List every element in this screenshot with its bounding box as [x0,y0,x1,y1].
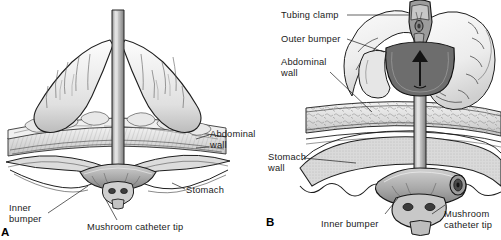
label-panel-b-stomach-wall: Stomachwall [268,152,306,173]
panel-b-mushroom-catheter-tip [392,194,446,236]
label-panel-a-inner-bumper: Innerbumper [9,203,42,224]
label-panel-b-mushroom-catheter-tip: Mushroomcatheter tip [444,209,492,230]
panel-a-mushroom-catheter-tip [102,182,133,210]
label-panel-a-mushroom-catheter-tip: Mushroom catheter tip [87,222,183,233]
figure-gastrostomy-tube-placement: Abdominalwall Stomach Innerbumper Mushro… [0,0,501,240]
label-panel-a-abdominal-wall: Abdominalwall [210,129,256,150]
panel-letter-b: B [266,216,274,228]
panel-a-catheter-tube [112,10,124,172]
label-panel-a-stomach: Stomach [186,185,224,196]
illustration-artwork [0,0,501,240]
label-panel-b-outer-bumper: Outer bumper [281,34,341,45]
panel-b-outer-bumper [359,42,455,98]
label-panel-b-inner-bumper: Inner bumper [321,219,379,230]
panel-letter-a: A [1,226,9,238]
label-panel-b-abdominal-wall: Abdominalwall [281,57,327,78]
label-panel-b-tubing-clamp: Tubing clamp [281,10,339,21]
